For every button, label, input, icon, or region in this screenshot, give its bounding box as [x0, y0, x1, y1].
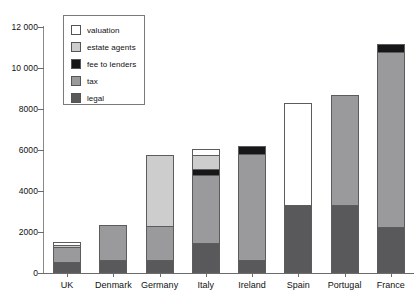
y-axis-tick-label: 6000 [0, 145, 38, 155]
bar-segment-legal [193, 243, 219, 272]
legend-swatch-icon [71, 25, 81, 35]
bar-segment-legal [54, 262, 80, 272]
bar-portugal [331, 95, 359, 273]
x-axis-tick [67, 273, 68, 277]
x-axis-tick [298, 273, 299, 277]
bar-segment-tax [239, 154, 265, 260]
legend-swatch-icon [71, 76, 81, 86]
bar-uk [53, 242, 81, 273]
x-axis-label-spain: Spain [287, 280, 310, 290]
bar-denmark [99, 225, 127, 273]
y-axis-tick-label: 0 [0, 268, 38, 278]
legend-label: legal [87, 94, 104, 103]
x-axis-label-denmark: Denmark [95, 280, 132, 290]
bar-segment-fee-to-lenders [378, 45, 404, 52]
y-axis-tick-label: 10 000 [0, 63, 38, 73]
bar-segment-estate-agents [147, 156, 173, 227]
x-axis-label-germany: Germany [141, 280, 178, 290]
y-axis-tick [38, 27, 44, 28]
legend-item-valuation: valuation [71, 22, 144, 38]
y-axis-tick [38, 68, 44, 69]
y-axis-tick-label: 12 000 [0, 22, 38, 32]
bar-italy [192, 149, 220, 273]
bar-segment-tax [100, 226, 126, 259]
y-axis-tick [38, 109, 44, 110]
y-axis-tick [38, 232, 44, 233]
bar-segment-legal [147, 260, 173, 272]
bar-segment-tax [147, 226, 173, 260]
bar-spain [284, 103, 312, 273]
legend-item-tax: tax [71, 73, 144, 89]
y-axis-tick [38, 273, 44, 274]
legend-item-estate-agents: estate agents [71, 39, 144, 55]
bar-segment-tax [54, 247, 80, 261]
x-axis-tick [113, 273, 114, 277]
chart-legend: valuationestate agentsfee to lenderstaxl… [63, 15, 145, 105]
bar-ireland [238, 146, 266, 273]
y-axis-tick-label: 2000 [0, 227, 38, 237]
bar-segment-legal [285, 205, 311, 272]
x-axis-tick [345, 273, 346, 277]
x-axis-label-france: France [377, 280, 405, 290]
legend-swatch-icon [71, 59, 81, 69]
x-axis-tick [206, 273, 207, 277]
bar-segment-legal [239, 260, 265, 272]
legend-swatch-icon [71, 42, 81, 52]
legend-item-legal: legal [71, 90, 144, 106]
bar-segment-valuation [285, 104, 311, 205]
stacked-bar-chart: 0200040006000800010 00012 000 UKDenmarkG… [0, 0, 420, 299]
legend-label: tax [87, 77, 98, 86]
x-axis-label-portugal: Portugal [328, 280, 362, 290]
y-axis-tick-label: 8000 [0, 104, 38, 114]
bar-segment-fee-to-lenders [193, 169, 219, 176]
x-axis-line [43, 273, 414, 274]
x-axis-label-uk: UK [61, 280, 74, 290]
legend-swatch-icon [71, 93, 81, 103]
x-axis-tick [391, 273, 392, 277]
bar-segment-tax [332, 96, 358, 205]
x-axis-label-italy: Italy [198, 280, 215, 290]
bar-segment-tax [193, 175, 219, 242]
x-axis-tick [160, 273, 161, 277]
bar-segment-legal [100, 260, 126, 272]
legend-label: estate agents [87, 43, 136, 52]
bar-france [377, 44, 405, 273]
y-axis-tick [38, 150, 44, 151]
y-axis-tick [38, 191, 44, 192]
bar-segment-legal [332, 205, 358, 272]
bar-segment-legal [378, 227, 404, 272]
bar-segment-estate-agents [193, 155, 219, 168]
x-axis-tick [252, 273, 253, 277]
x-axis-label-ireland: Ireland [238, 280, 266, 290]
bar-germany [146, 155, 174, 273]
y-axis-tick-label: 4000 [0, 186, 38, 196]
legend-label: valuation [87, 26, 119, 35]
bar-segment-fee-to-lenders [239, 147, 265, 154]
legend-item-fee-to-lenders: fee to lenders [71, 56, 144, 72]
bar-segment-tax [378, 52, 404, 227]
legend-label: fee to lenders [87, 60, 136, 69]
